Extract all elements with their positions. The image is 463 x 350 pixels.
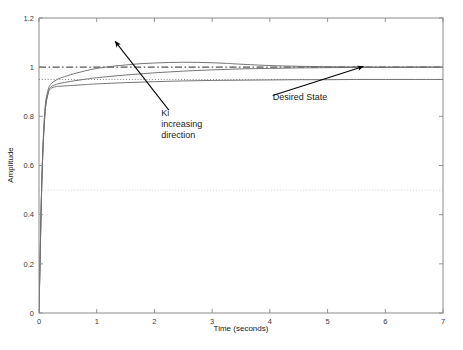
y-tick-label: 1.2: [24, 14, 34, 23]
y-tick-label: 0.8: [24, 112, 34, 121]
figure-canvas: 01234567 00.20.40.60.811.2 Kiincreasingd…: [0, 0, 463, 350]
y-tick-label: 0.6: [24, 161, 34, 170]
x-tick-label: 5: [325, 317, 329, 326]
x-axis-title: Time (seconds): [214, 324, 269, 333]
x-tick-label: 1: [95, 317, 99, 326]
y-tick-label: 1: [30, 63, 34, 72]
x-tick-label: 2: [152, 317, 156, 326]
desired-state-annotation-line-0: Desired State: [273, 92, 328, 102]
desired-state-annotation-label: Desired State: [273, 92, 328, 102]
ki-increasing-annotation-line-0: Ki: [161, 108, 169, 118]
x-tick-label: 7: [441, 317, 445, 326]
x-tick-label: 6: [383, 317, 387, 326]
y-tick-label: 0.4: [24, 210, 34, 219]
y-tick-label: 0.2: [24, 260, 34, 269]
ki-increasing-annotation-line-1: increasing: [161, 119, 202, 129]
y-axis-title: Amplitude: [6, 147, 15, 183]
ki-increasing-annotation-line-2: direction: [161, 130, 195, 140]
chart-background: [0, 0, 463, 350]
y-tick-label: 0: [30, 309, 34, 318]
x-tick-label: 0: [37, 317, 41, 326]
step-response-chart: 01234567 00.20.40.60.811.2 Kiincreasingd…: [0, 0, 463, 350]
